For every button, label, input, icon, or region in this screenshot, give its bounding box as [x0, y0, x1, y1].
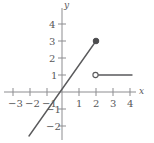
y-axis-label: y	[64, 1, 69, 10]
coordinate-plane-svg	[0, 0, 154, 143]
x-tick-label-neg3: −3	[8, 99, 23, 109]
x-tick-label-2: 2	[93, 99, 99, 109]
x-tick-label-4: 4	[127, 99, 133, 109]
y-tick-label-neg1: −1	[46, 105, 61, 115]
x-tick-label-3: 3	[110, 99, 116, 109]
y-tick-label-neg2: −2	[46, 122, 61, 132]
y-tick-label-4: 4	[49, 20, 55, 30]
closed-endpoint-dot	[93, 38, 99, 44]
x-tick-label-neg2: −2	[25, 99, 40, 109]
y-tick-label-2: 2	[49, 54, 55, 64]
graph-figure: −3 −2 −1 1 2 3 4 4 3 2 1 −1 −2 x y	[0, 0, 154, 143]
y-tick-label-1: 1	[51, 71, 57, 81]
x-tick-label-1: 1	[76, 99, 82, 109]
x-axis-label: x	[139, 87, 144, 96]
y-tick-label-3: 3	[49, 37, 55, 47]
open-endpoint-circle	[93, 72, 98, 77]
